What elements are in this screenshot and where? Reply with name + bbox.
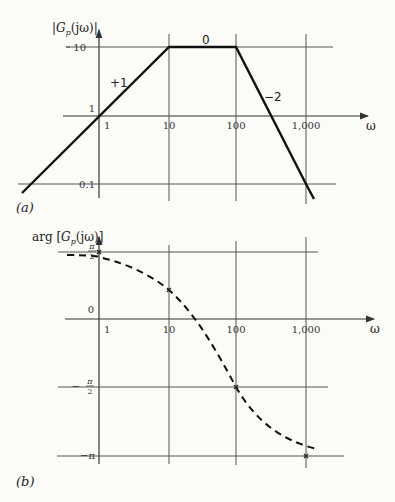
x-tick-100: 100 (226, 120, 245, 131)
x-tick-1000: 1,000 (292, 120, 321, 131)
panel-b-phase: arg [Gp(jω)] π 2 0 − π 2 −π 1 10 100 1,0… (16, 230, 380, 489)
x-tick-1000: 1,000 (292, 324, 321, 335)
y-tick-0: 0 (88, 304, 94, 315)
x-tick-1: 1 (104, 120, 110, 131)
svg-text:2: 2 (89, 252, 94, 261)
x-tick-10: 10 (163, 324, 176, 335)
svg-text:−: − (72, 381, 80, 392)
panel-a-y-label: |Gp(jω)| (52, 21, 98, 37)
panel-a-label: (a) (16, 200, 34, 215)
x-tick-1: 1 (104, 324, 110, 335)
x-tick-100: 100 (226, 324, 245, 335)
bode-figure: |Gp(jω)| 10 1 0.1 1 10 100 1,000 ω +1 0 … (0, 0, 395, 502)
y-tick-10: 10 (73, 42, 86, 53)
phase-curve (67, 255, 317, 449)
svg-text:2: 2 (87, 387, 92, 396)
slope-label-plus1: +1 (110, 76, 128, 90)
y-tick-1: 1 (89, 103, 95, 114)
slope-label-minus2: −2 (264, 90, 282, 104)
x-tick-10: 10 (163, 120, 176, 131)
panel-a-x-label: ω (366, 119, 376, 133)
y-tick-minus-pi: −π (80, 450, 95, 461)
panel-a-magnitude: |Gp(jω)| 10 1 0.1 1 10 100 1,000 ω +1 0 … (16, 21, 376, 215)
panel-b-x-label: ω (370, 322, 380, 336)
svg-text:π: π (86, 377, 93, 386)
panel-b-label: (b) (16, 474, 34, 489)
y-tick-0.1: 0.1 (79, 179, 95, 190)
svg-text:π: π (88, 242, 95, 251)
slope-label-0: 0 (202, 33, 210, 47)
